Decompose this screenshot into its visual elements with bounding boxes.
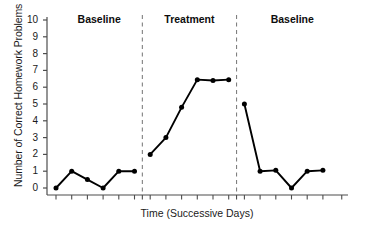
data-point: [289, 186, 294, 191]
data-series-baseline: [54, 169, 138, 191]
data-point: [101, 186, 106, 191]
data-point: [320, 168, 325, 173]
data-point: [258, 169, 263, 174]
data-point: [69, 169, 74, 174]
axis-lines: [47, 17, 348, 195]
data-point: [163, 135, 168, 140]
data-series-baseline2: [242, 102, 326, 191]
data-point: [305, 169, 310, 174]
phase-dividers: [142, 15, 236, 195]
data-point: [148, 152, 153, 157]
data-point: [242, 102, 247, 107]
data-point: [54, 186, 59, 191]
data-point: [179, 105, 184, 110]
data-point: [132, 169, 137, 174]
x-axis-ticks: [56, 195, 342, 200]
data-series-treatment: [148, 77, 232, 157]
data-point: [195, 77, 200, 82]
chart-container: Number of Correct Homework Problems Time…: [0, 0, 365, 234]
data-point: [85, 177, 90, 182]
data-point: [116, 169, 121, 174]
plot-area: [0, 0, 365, 234]
data-point: [273, 168, 278, 173]
data-point: [226, 77, 231, 82]
data-point: [211, 78, 216, 83]
